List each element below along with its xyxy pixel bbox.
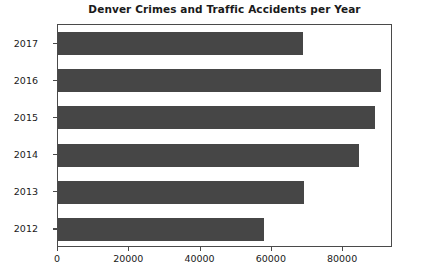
x-tick-label-0: 0	[54, 253, 60, 264]
x-tick-mark-80000	[342, 247, 343, 251]
y-axis-tick-labels: 201720162015201420132012	[0, 24, 50, 247]
y-tick-label-2015: 2015	[14, 111, 38, 122]
x-axis-tick-labels: 020000400006000080000	[57, 250, 392, 270]
x-tick-label-60000: 60000	[256, 253, 286, 264]
bars-layer	[58, 25, 391, 246]
bar-2016	[58, 69, 381, 92]
y-tick-mark-2016	[53, 80, 57, 81]
y-tick-mark-2015	[53, 117, 57, 118]
y-tick-label-2014: 2014	[14, 149, 38, 160]
x-tick-label-80000: 80000	[327, 253, 357, 264]
x-tick-mark-20000	[128, 247, 129, 251]
x-tick-mark-60000	[271, 247, 272, 251]
y-tick-mark-2017	[53, 43, 57, 44]
bar-2015	[58, 106, 375, 129]
bar-2014	[58, 144, 359, 167]
y-tick-label-2012: 2012	[14, 223, 38, 234]
x-tick-mark-0	[57, 247, 58, 251]
chart-figure: Denver Crimes and Traffic Accidents per …	[0, 0, 421, 280]
bar-2013	[58, 181, 304, 204]
y-tick-label-2016: 2016	[14, 74, 38, 85]
x-tick-label-40000: 40000	[184, 253, 214, 264]
y-tick-mark-2014	[53, 154, 57, 155]
chart-title: Denver Crimes and Traffic Accidents per …	[57, 3, 392, 15]
y-tick-mark-2013	[53, 191, 57, 192]
y-tick-label-2013: 2013	[14, 186, 38, 197]
plot-area	[57, 24, 392, 247]
y-tick-mark-2012	[53, 228, 57, 229]
bar-2017	[58, 32, 303, 55]
x-tick-mark-40000	[200, 247, 201, 251]
x-tick-label-20000: 20000	[113, 253, 143, 264]
bar-2012	[58, 218, 264, 241]
y-tick-label-2017: 2017	[14, 37, 38, 48]
